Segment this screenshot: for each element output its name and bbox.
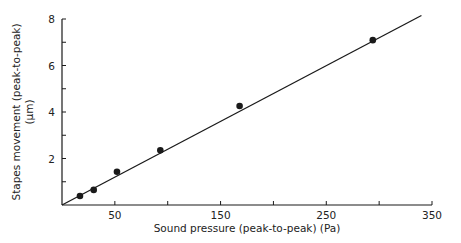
y-tick-label: 4 xyxy=(48,106,55,118)
y-axis-label: Stapes movement (peak-to-peak) xyxy=(10,23,22,200)
y-tick-label: 6 xyxy=(48,60,55,72)
data-point xyxy=(236,103,243,110)
x-tick-label: 350 xyxy=(422,209,442,221)
y-axis-label-group: Stapes movement (peak-to-peak) (µm) xyxy=(10,23,35,200)
axes: 501502503502468 xyxy=(48,13,442,221)
data-point xyxy=(90,187,97,194)
data-point xyxy=(77,193,84,200)
data-point xyxy=(157,147,164,154)
data-point xyxy=(114,168,121,175)
y-axis-unit: (µm) xyxy=(23,99,35,124)
fit-line xyxy=(62,16,421,205)
x-axis-label: Sound pressure (peak-to-peak) (Pa) xyxy=(154,222,341,234)
regression-line xyxy=(62,16,421,205)
y-tick-label: 8 xyxy=(48,13,55,25)
scatter-chart: 501502503502468 Sound pressure (peak-to-… xyxy=(0,0,461,243)
x-tick-label: 250 xyxy=(316,209,336,221)
y-tick-label: 2 xyxy=(48,153,55,165)
x-tick-label: 150 xyxy=(211,209,231,221)
data-point xyxy=(370,37,377,44)
x-tick-label: 50 xyxy=(108,209,121,221)
